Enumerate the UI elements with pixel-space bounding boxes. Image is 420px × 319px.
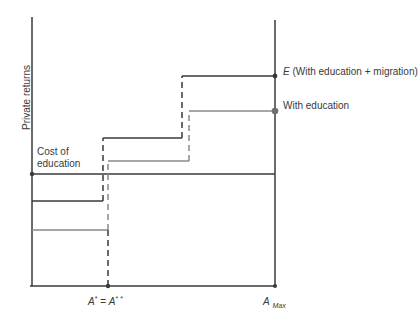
a-star-letter: A — [88, 296, 95, 307]
cost-label-line1: Cost of — [37, 146, 80, 158]
cost-label: Cost of education — [37, 146, 80, 170]
with-education-label: With education — [283, 100, 349, 112]
x-tick-a-star: A* = A* * — [88, 293, 123, 308]
a-max-letter: A — [263, 296, 270, 307]
equals-sign: = — [97, 296, 108, 307]
cost-label-line2: education — [37, 158, 80, 170]
y-axis-label: Private returns — [21, 58, 32, 138]
with-education-migration-curve — [32, 76, 275, 201]
a-star-dot — [106, 284, 110, 288]
e-letter: E — [283, 66, 290, 77]
a-2star-sup: * * — [115, 295, 122, 302]
e-curve-label: E (With education + migration) — [283, 66, 418, 78]
cost-dot — [30, 172, 34, 176]
x-tick-a-max: A Max — [263, 296, 286, 312]
e-dot — [273, 74, 278, 79]
e-label-text: (With education + migration) — [290, 66, 418, 77]
a-max-sub: Max — [272, 302, 285, 309]
with-education-curve — [32, 111, 275, 230]
with-education-dot — [272, 108, 279, 115]
a-max-dot — [273, 284, 277, 288]
